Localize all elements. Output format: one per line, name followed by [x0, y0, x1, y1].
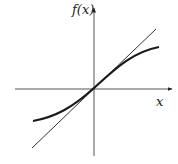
y-axis-label: f(x): [72, 3, 94, 16]
x-axis-label: x: [156, 95, 163, 108]
function-plot: [0, 0, 178, 164]
function-curve: [33, 47, 159, 121]
